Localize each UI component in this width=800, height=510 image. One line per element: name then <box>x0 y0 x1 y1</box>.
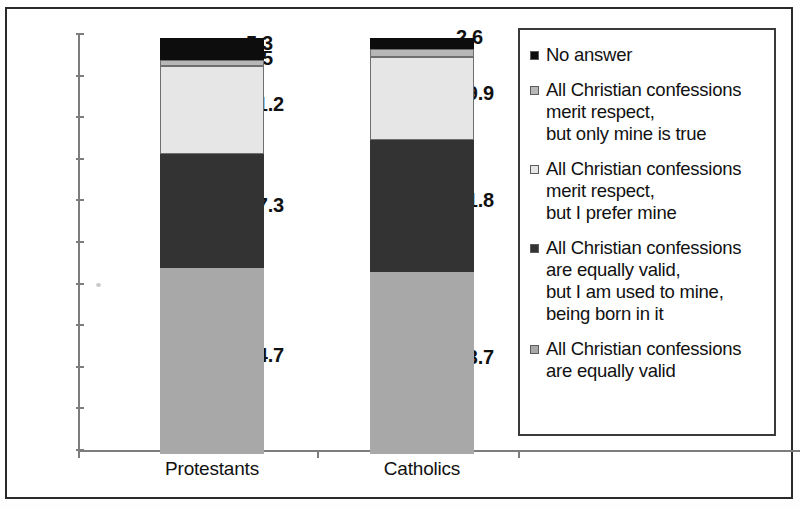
legend-item[interactable]: All Christian confessionsmerit respect,b… <box>530 79 766 145</box>
legend-item-label: All Christian confessionsmerit respect,b… <box>546 158 766 224</box>
x-axis-tick <box>78 450 80 458</box>
bar-segment[interactable] <box>370 49 474 57</box>
x-axis-category-label: Catholics <box>332 458 512 480</box>
legend-item-line: No answer <box>546 44 766 66</box>
y-axis-tick <box>76 33 84 35</box>
bar-protestants[interactable] <box>160 38 264 454</box>
legend-swatch-icon <box>530 51 539 60</box>
y-axis-tick <box>76 158 84 160</box>
bar-catholics[interactable] <box>370 38 474 454</box>
legend-item-line: are equally valid <box>546 360 766 382</box>
y-axis-tick <box>76 366 84 368</box>
legend-item-line: All Christian confessions <box>546 79 766 101</box>
bar-segment[interactable] <box>160 268 264 454</box>
legend-item-line: All Christian confessions <box>546 338 766 360</box>
y-axis-tick <box>76 241 84 243</box>
bar-segment[interactable] <box>370 57 474 140</box>
legend-item-label: All Christian confessionsare equally val… <box>546 237 766 325</box>
chart-screenshot: 100%90%80%70%60%50%40%30%20%10%0% 5.31.5… <box>0 0 800 510</box>
legend-swatch-icon <box>530 165 539 174</box>
legend-swatch-icon <box>530 86 539 95</box>
bar-segment[interactable] <box>160 66 264 154</box>
y-axis-line <box>78 34 80 452</box>
legend-item[interactable]: All Christian confessionsare equally val… <box>530 338 766 382</box>
legend-item[interactable]: No answer <box>530 44 766 66</box>
y-axis-tick <box>76 324 84 326</box>
legend-swatch-icon <box>530 345 539 354</box>
bar-segment[interactable] <box>370 140 474 272</box>
legend-box: No answerAll Christian confessionsmerit … <box>518 28 776 436</box>
x-axis-category-label: Protestants <box>122 458 302 480</box>
legend-item-line: but I am used to mine, <box>546 281 766 303</box>
x-axis-tick <box>518 450 520 458</box>
bar-segment[interactable] <box>370 272 474 454</box>
legend-item[interactable]: All Christian confessionsare equally val… <box>530 237 766 325</box>
legend-items: No answerAll Christian confessionsmerit … <box>530 44 766 382</box>
bar-segment[interactable] <box>160 154 264 268</box>
bar-segment[interactable] <box>160 38 264 60</box>
legend-item-line: but I prefer mine <box>546 202 766 224</box>
legend-item-line: All Christian confessions <box>546 158 766 180</box>
legend-item-line: are equally valid, <box>546 259 766 281</box>
y-axis-tick <box>76 407 84 409</box>
legend-item-line: merit respect, <box>546 180 766 202</box>
y-axis-tick <box>76 283 84 285</box>
bar-segment[interactable] <box>370 38 474 49</box>
y-axis-tick <box>76 75 84 77</box>
y-axis-tick <box>76 116 84 118</box>
x-axis-tick <box>317 450 319 458</box>
legend-item-label: All Christian confessionsmerit respect,b… <box>546 79 766 145</box>
legend-item-line: being born in it <box>546 303 766 325</box>
legend-swatch-icon <box>530 244 539 253</box>
legend-item-label: No answer <box>546 44 766 66</box>
legend-item-line: but only mine is true <box>546 123 766 145</box>
legend-item[interactable]: All Christian confessionsmerit respect,b… <box>530 158 766 224</box>
legend-item-line: merit respect, <box>546 101 766 123</box>
y-axis-tick <box>76 199 84 201</box>
legend-item-line: All Christian confessions <box>546 237 766 259</box>
plot-area: 100%90%80%70%60%50%40%30%20%10%0% 5.31.5… <box>78 34 518 454</box>
legend-item-label: All Christian confessionsare equally val… <box>546 338 766 382</box>
scan-artifact <box>96 283 101 287</box>
